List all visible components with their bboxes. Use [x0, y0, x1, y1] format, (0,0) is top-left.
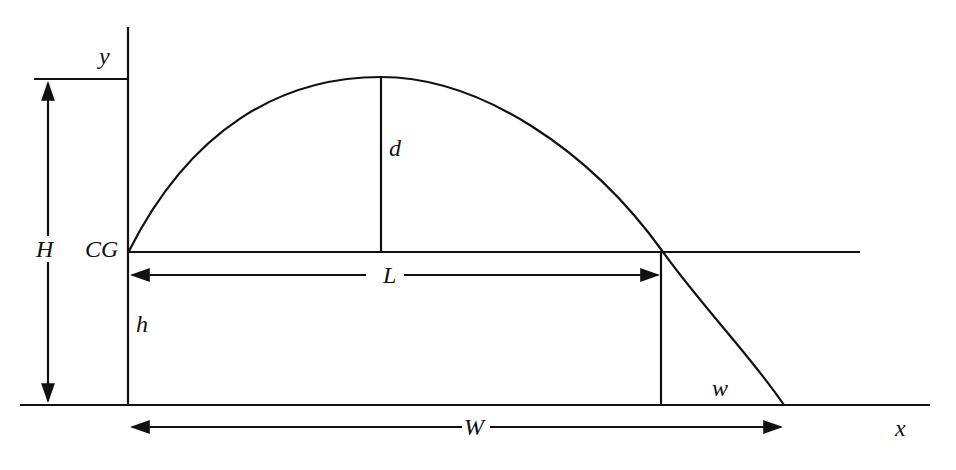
total-height-label: H [35, 236, 55, 262]
apex-rise-label: d [389, 135, 402, 161]
total-range-label: W [464, 414, 486, 440]
trajectory-curve [129, 77, 784, 405]
trajectory-diagram: y H CG d L h w W x [0, 0, 956, 470]
x-axis-label: x [894, 415, 906, 441]
cg-height-label: h [136, 311, 148, 337]
extra-range-label: w [712, 375, 728, 401]
y-axis-label: y [97, 43, 110, 69]
range-at-cg-label: L [382, 262, 396, 288]
center-of-gravity-label: CG [85, 236, 118, 262]
